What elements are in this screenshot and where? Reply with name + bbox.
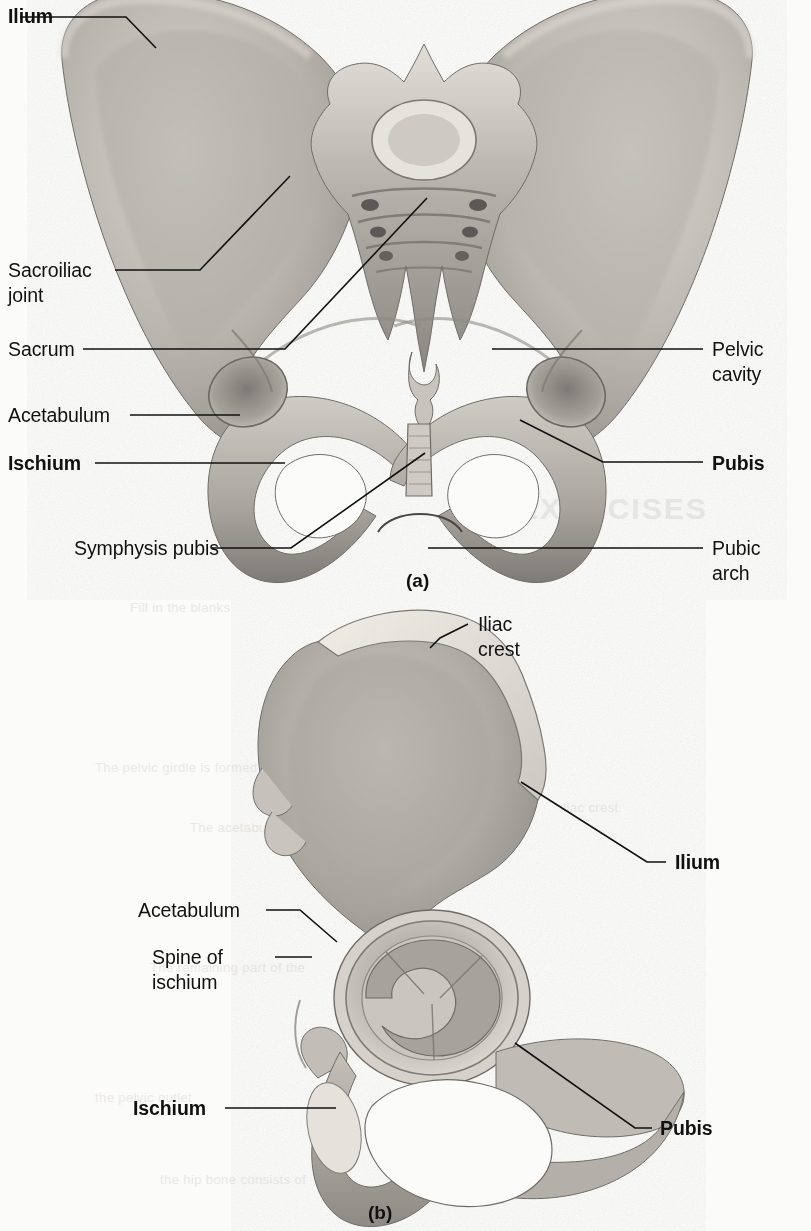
label-spine-of-ischium: Spine of ischium — [152, 945, 223, 995]
pelvis-figure: EXERCISESFill in the blanksThe pelvic gi… — [0, 0, 811, 1231]
panel-b-lateral-hip-bone: Iliac crestIliumAcetabulumSpine of ischi… — [0, 600, 811, 1231]
panel-a-caption: (a) — [406, 570, 429, 592]
anterior-pelvis-illustration — [0, 0, 811, 600]
panel-a-anterior-pelvis: IliumSacroiliac jointSacrumAcetabulumIsc… — [0, 0, 811, 600]
label-ischium: Ischium — [133, 1096, 206, 1121]
label-acetabulum: Acetabulum — [8, 403, 110, 428]
label-iliac-crest: Iliac crest — [478, 612, 520, 662]
label-ilium: Ilium — [675, 850, 720, 875]
panel-b-caption: (b) — [368, 1202, 392, 1224]
label-pubic-arch: Pubic arch — [712, 536, 760, 586]
label-sacrum: Sacrum — [8, 337, 75, 362]
label-ischium: Ischium — [8, 451, 81, 476]
label-pelvic-cavity: Pelvic cavity — [712, 337, 763, 387]
label-acetabulum: Acetabulum — [138, 898, 240, 923]
label-pubis: Pubis — [660, 1116, 713, 1141]
label-ilium: Ilium — [8, 4, 53, 29]
label-pubis: Pubis — [712, 451, 765, 476]
label-sacroiliac-joint: Sacroiliac joint — [8, 258, 92, 308]
label-symphysis-pubis: Symphysis pubis — [74, 536, 219, 561]
